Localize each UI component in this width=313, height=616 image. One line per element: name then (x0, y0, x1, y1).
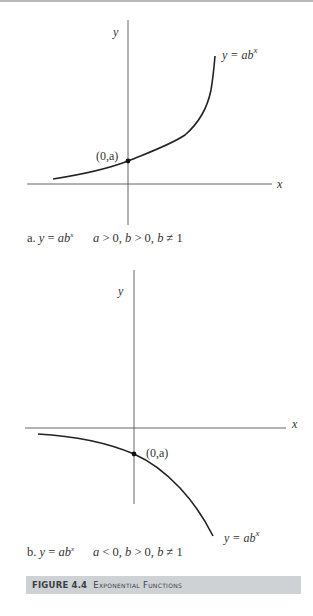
caption-a: a. y = abx a > 0, b > 0, b ≠ 1 (27, 231, 73, 246)
caption-b-condition: a < 0, b > 0, b ≠ 1 (93, 545, 183, 560)
plot-b-intercept-point (132, 452, 137, 457)
caption-a-condition: a > 0, b > 0, b ≠ 1 (93, 231, 183, 246)
caption-b-ab: ab (58, 545, 71, 559)
plot-b-curve-label: y = abx (223, 528, 259, 545)
figure-title: Exponential Functions (93, 580, 182, 590)
caption-b: b. y = abx a < 0, b > 0, b ≠ 1 (27, 545, 74, 560)
caption-b-exp: x (71, 545, 74, 553)
caption-a-prefix: a. (27, 231, 39, 245)
plot-b-x-label: x (291, 417, 298, 431)
caption-a-exp: x (70, 231, 73, 239)
plot-b-curve (38, 434, 213, 536)
caption-b-prefix: b. (27, 545, 40, 559)
caption-a-eq: = (44, 231, 57, 245)
figure-caption-bar: FIGURE 4.4 Exponential Functions (26, 576, 301, 594)
figure-number: FIGURE 4.4 (32, 580, 87, 590)
plot-b-point-label: (0,a) (146, 446, 168, 460)
plot-b-y-label: y (117, 284, 124, 298)
plot-b: y x (0,a) y = abx (0, 0, 313, 616)
caption-b-eq: = (45, 545, 58, 559)
caption-a-ab: ab (58, 231, 71, 245)
